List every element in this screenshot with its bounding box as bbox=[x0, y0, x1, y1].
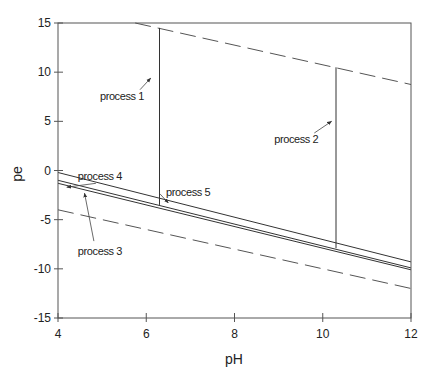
x-tick-label: 4 bbox=[55, 327, 62, 341]
x-tick-label: 12 bbox=[404, 327, 418, 341]
y-tick-label: -5 bbox=[40, 213, 51, 227]
y-axis-title: pe bbox=[9, 166, 25, 182]
annotation-process-4: process 4 bbox=[78, 170, 122, 182]
y-tick-label: 15 bbox=[38, 16, 52, 30]
y-tick-label: 5 bbox=[44, 114, 51, 128]
y-tick-label: -15 bbox=[34, 311, 52, 325]
annotation-process-5: process 5 bbox=[166, 186, 210, 198]
pe-ph-chart: 4681012151050-5-10-15 process 1process 2… bbox=[0, 0, 434, 382]
y-tick-label: 0 bbox=[44, 164, 51, 178]
y-tick-label: -10 bbox=[34, 262, 52, 276]
annotations: process 1process 2process 3process 4proc… bbox=[67, 78, 332, 257]
annotation-arrow bbox=[314, 121, 331, 133]
x-axis-title: pH bbox=[225, 351, 243, 367]
y-tick-label: 10 bbox=[38, 65, 52, 79]
annotation-process-1: process 1 bbox=[100, 90, 144, 102]
x-tick-label: 8 bbox=[231, 327, 238, 341]
annotation-arrow bbox=[140, 78, 151, 90]
x-tick-label: 10 bbox=[316, 327, 330, 341]
series-upper-water-stability-limit-o2-h2o- bbox=[135, 23, 411, 85]
annotation-process-3: process 3 bbox=[78, 245, 122, 257]
x-tick-label: 6 bbox=[143, 327, 150, 341]
annotation-process-2: process 2 bbox=[274, 133, 318, 145]
